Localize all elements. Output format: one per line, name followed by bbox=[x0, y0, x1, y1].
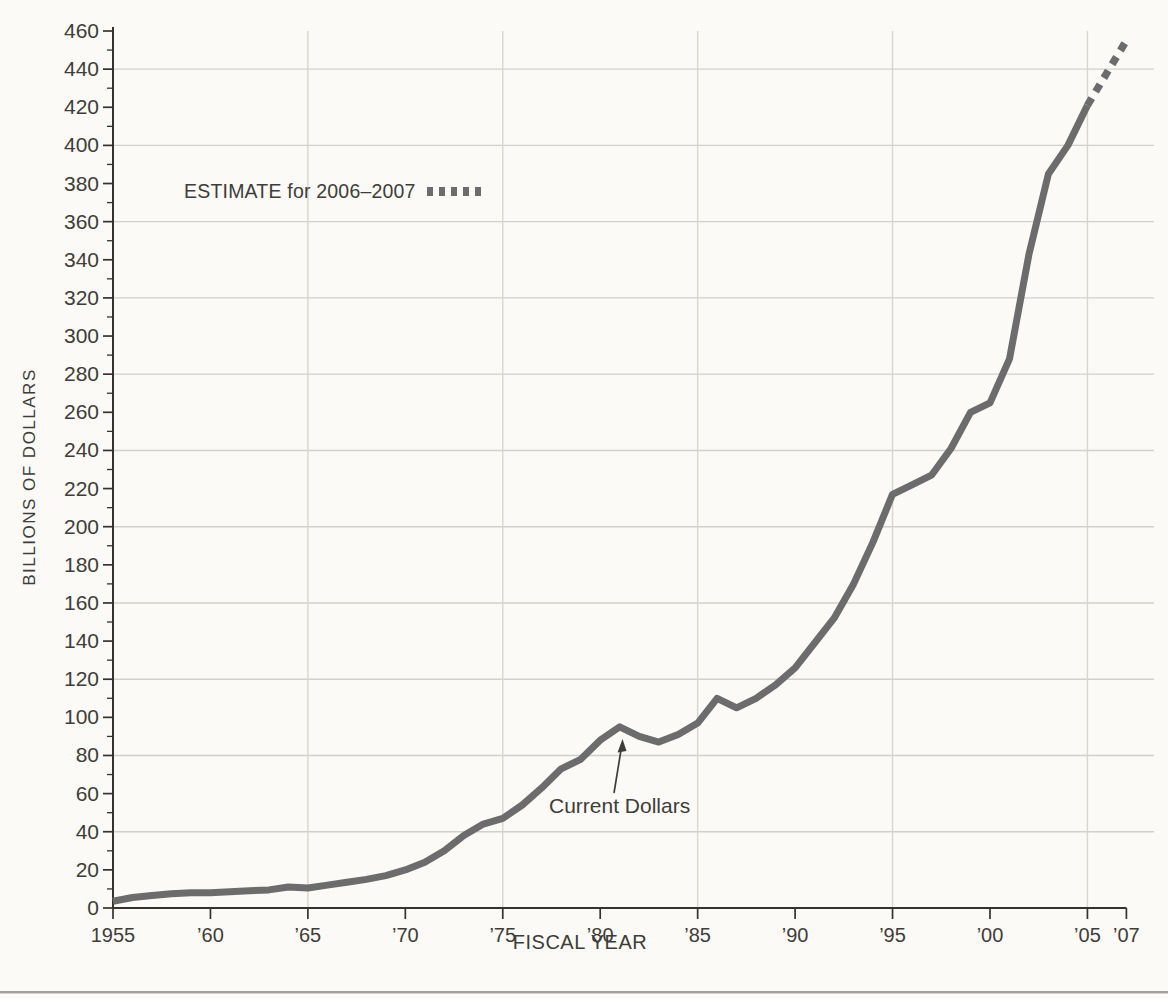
chart-legend: ESTIMATE for 2006–2007 bbox=[184, 180, 487, 203]
y-tick-label: 420 bbox=[64, 95, 99, 118]
y-tick-label: 20 bbox=[76, 858, 99, 881]
current-dollars-line bbox=[113, 105, 1087, 901]
chart-page: 0204060801001201401601802002202402602803… bbox=[0, 0, 1168, 999]
y-tick-label: 440 bbox=[64, 57, 99, 80]
y-axis-title: BILLIONS OF DOLLARS bbox=[20, 277, 40, 677]
legend-label: ESTIMATE for 2006–2007 bbox=[184, 180, 416, 203]
y-tick-label: 300 bbox=[64, 324, 99, 347]
y-tick-label: 160 bbox=[64, 591, 99, 614]
y-tick-label: 240 bbox=[64, 438, 99, 461]
annotation-arrow bbox=[614, 739, 627, 793]
y-tick-label: 60 bbox=[76, 782, 99, 805]
dash-mark bbox=[427, 187, 434, 196]
y-tick-label: 180 bbox=[64, 553, 99, 576]
y-tick-label: 120 bbox=[64, 667, 99, 690]
data-series-layer bbox=[113, 41, 1126, 902]
y-tick-label: 100 bbox=[64, 705, 99, 728]
y-tick-label: 400 bbox=[64, 133, 99, 156]
y-tick-label: 80 bbox=[76, 743, 99, 766]
dash-mark bbox=[439, 187, 446, 196]
y-tick-label: 280 bbox=[64, 362, 99, 385]
x-axis-title: FISCAL YEAR bbox=[0, 931, 1160, 954]
estimate-dash-swatch bbox=[427, 187, 487, 196]
dash-mark bbox=[463, 187, 470, 196]
y-tick-label: 360 bbox=[64, 210, 99, 233]
y-tick-label: 320 bbox=[64, 286, 99, 309]
dash-mark bbox=[475, 187, 482, 196]
annotation-current-dollars: Current Dollars bbox=[549, 794, 690, 818]
grid-layer bbox=[113, 31, 1154, 908]
y-tick-label: 340 bbox=[64, 248, 99, 271]
y-tick-label: 220 bbox=[64, 477, 99, 500]
dash-mark bbox=[451, 187, 458, 196]
page-bottom-rule bbox=[0, 991, 1168, 994]
y-tick-label: 460 bbox=[64, 19, 99, 42]
y-tick-label: 140 bbox=[64, 629, 99, 652]
y-tick-label: 40 bbox=[76, 820, 99, 843]
y-tick-label: 200 bbox=[64, 515, 99, 538]
y-tick-label: 380 bbox=[64, 172, 99, 195]
y-tick-label: 260 bbox=[64, 400, 99, 423]
y-tick-label: 0 bbox=[87, 896, 99, 919]
estimate-dashed-line bbox=[1087, 41, 1126, 106]
line-chart: 0204060801001201401601802002202402602803… bbox=[0, 0, 1168, 999]
